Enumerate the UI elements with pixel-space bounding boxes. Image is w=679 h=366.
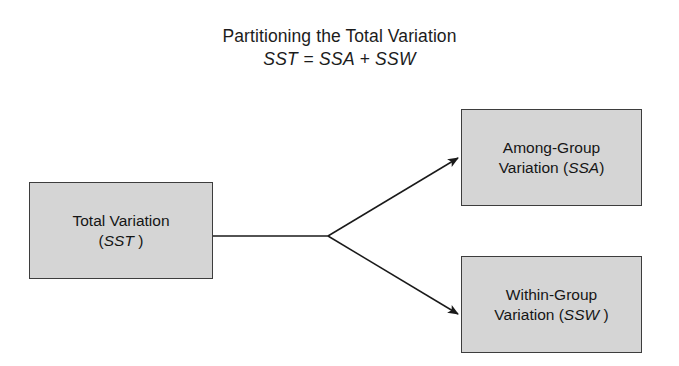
node-among-group-variation-symbol: SSA	[568, 159, 599, 176]
node-within-group-variation-suffix: )	[599, 306, 608, 323]
node-among-group-variation-line-1: Among-Group	[503, 138, 600, 158]
diagram-title: Partitioning the Total Variation SST = S…	[0, 26, 679, 71]
node-total-variation: Total Variation (SST )	[29, 182, 213, 279]
node-within-group-variation: Within-Group Variation (SSW )	[461, 256, 642, 353]
node-within-group-variation-line-1: Within-Group	[506, 285, 597, 305]
node-within-group-variation-symbol: SSW	[564, 306, 599, 323]
node-among-group-variation-suffix: )	[599, 159, 604, 176]
title-line-1: Partitioning the Total Variation	[0, 26, 679, 47]
node-within-group-variation-prefix: Variation (	[494, 306, 564, 323]
title-line-2-equation: SST = SSA + SSW	[0, 49, 679, 70]
connector-lower-arrow	[328, 236, 458, 314]
node-total-variation-symbol: SST	[104, 232, 134, 249]
node-among-group-variation-line-2: Variation (SSA)	[499, 158, 605, 178]
connector-upper-arrow	[328, 158, 458, 236]
node-total-variation-line-2: (SST )	[99, 231, 144, 251]
node-within-group-variation-line-2: Variation (SSW )	[494, 305, 608, 325]
node-among-group-variation-prefix: Variation (	[499, 159, 569, 176]
diagram-canvas: Partitioning the Total Variation SST = S…	[0, 0, 679, 366]
node-total-variation-line-1: Total Variation	[72, 211, 169, 231]
node-total-variation-paren-close: )	[134, 232, 143, 249]
node-among-group-variation: Among-Group Variation (SSA)	[461, 109, 642, 206]
